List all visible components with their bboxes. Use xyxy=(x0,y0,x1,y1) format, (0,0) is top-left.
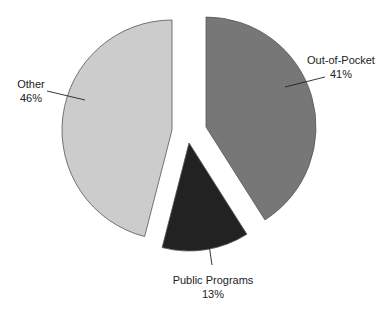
slice-percent-other: 46% xyxy=(20,92,42,104)
pie-slice-out-of-pocket xyxy=(206,17,316,220)
slices-layer xyxy=(62,17,316,251)
slice-label-other: Other xyxy=(17,78,45,90)
slice-percent-out-of-pocket: 41% xyxy=(330,68,352,80)
pie-chart-canvas: Out-of-Pocket41%Public Programs13%Other4… xyxy=(0,0,391,311)
pie-chart: Out-of-Pocket41%Public Programs13%Other4… xyxy=(0,0,391,311)
pie-slice-other xyxy=(62,20,172,237)
slice-label-public-programs: Public Programs xyxy=(173,274,254,286)
slice-label-out-of-pocket: Out-of-Pocket xyxy=(307,54,375,66)
slice-percent-public-programs: 13% xyxy=(202,288,224,300)
